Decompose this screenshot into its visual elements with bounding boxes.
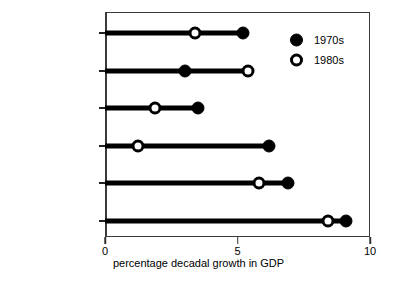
dumbbell-connector-line	[105, 68, 248, 73]
data-point-1970s	[178, 64, 191, 77]
dumbbell-connector-line	[105, 218, 346, 223]
data-point-1980s	[189, 27, 202, 40]
data-point-1980s	[252, 177, 265, 190]
data-point-1970s	[191, 102, 204, 115]
x-axis-tick-label: 10	[364, 246, 376, 257]
x-axis-tick-label: 5	[234, 246, 240, 257]
x-axis-tick	[237, 237, 239, 244]
x-axis-tick	[369, 237, 371, 244]
dumbbell-connector-line	[105, 31, 243, 36]
data-point-1970s	[263, 139, 276, 152]
legend-item-1970s: 1970s	[288, 30, 364, 50]
x-axis-tick-label: 0	[102, 246, 108, 257]
legend-item-1980s: 1980s	[288, 50, 364, 70]
data-point-1970s	[281, 177, 294, 190]
legend-filled-circle-icon	[290, 34, 303, 47]
x-axis-title: percentage decadal growth in GDP	[0, 257, 397, 269]
chart-figure: Middle EastSouth AsiaSub-Saharan AfricaL…	[0, 0, 397, 281]
x-axis-tick	[104, 237, 106, 244]
chart-legend: 1970s 1980s	[288, 30, 364, 70]
legend-label-1980s: 1980s	[314, 55, 344, 66]
data-point-1970s	[236, 27, 249, 40]
data-point-1980s	[149, 102, 162, 115]
legend-open-circle-icon	[290, 54, 303, 67]
data-point-1980s	[132, 139, 145, 152]
legend-label-1970s: 1970s	[314, 35, 344, 46]
data-point-1970s	[340, 214, 353, 227]
dumbbell-connector-line	[105, 143, 269, 148]
data-point-1980s	[242, 64, 255, 77]
data-point-1980s	[321, 214, 334, 227]
